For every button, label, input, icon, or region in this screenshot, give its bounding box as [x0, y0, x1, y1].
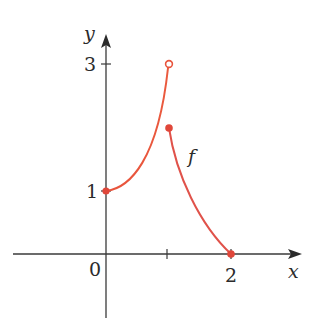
x-axis-label: x	[288, 260, 299, 282]
function-label: f	[186, 145, 198, 167]
origin-label: 0	[89, 258, 101, 280]
closed-dot-0-1	[102, 187, 109, 194]
y-axis-label: y	[83, 22, 95, 44]
y-tick-label-1: 1	[86, 180, 98, 202]
open-dot-1-3	[166, 61, 173, 68]
curve-piece-2	[169, 128, 231, 254]
closed-dot-1-2	[165, 124, 173, 132]
y-tick-label-3: 3	[84, 53, 96, 75]
piecewise-function-graph: y x 3 1 0 2 f	[0, 0, 319, 324]
closed-dot-2-0	[227, 250, 235, 258]
curve-piece-1	[106, 68, 168, 191]
x-tick-label-2: 2	[225, 264, 237, 286]
